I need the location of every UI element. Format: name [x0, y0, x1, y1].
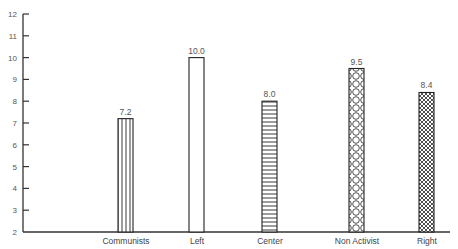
y-tick-label: 4	[13, 184, 18, 193]
y-tick-label: 2	[13, 228, 18, 237]
bar-non-activist	[349, 69, 364, 233]
bar-right	[419, 92, 434, 232]
category-label: Right	[417, 236, 437, 246]
y-tick-label: 10	[8, 54, 17, 63]
y-tick-label: 12	[8, 10, 17, 19]
category-label: Non Activist	[335, 236, 380, 246]
value-label: 8.0	[264, 89, 276, 99]
y-tick-label: 8	[13, 97, 18, 106]
y-tick-label: 6	[13, 141, 18, 150]
category-label: Center	[257, 236, 283, 246]
value-label: 9.5	[351, 57, 363, 67]
category-label: Left	[190, 236, 205, 246]
value-label: 10.0	[188, 46, 205, 56]
value-label: 7.2	[120, 107, 132, 117]
bar-left	[189, 58, 204, 232]
bars	[118, 58, 434, 232]
value-label: 8.4	[421, 80, 433, 90]
y-tick-label: 11	[9, 32, 18, 41]
y-tick-label: 9	[13, 75, 18, 84]
y-tick-label: 5	[13, 163, 18, 172]
axes: 23456789101112	[8, 10, 450, 237]
category-label: Communists	[102, 236, 149, 246]
y-tick-label: 3	[13, 206, 18, 215]
bar-communists	[118, 119, 133, 232]
y-tick-label: 7	[13, 119, 18, 128]
bar-chart: 23456789101112 7.2Communists10.0Left8.0C…	[0, 0, 458, 249]
bar-center	[262, 101, 277, 232]
